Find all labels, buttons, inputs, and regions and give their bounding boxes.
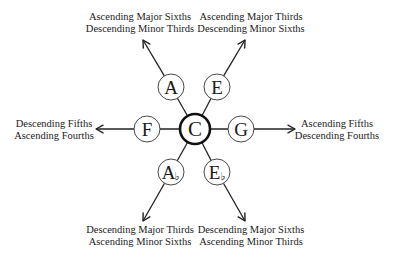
arrow-shaft-eb [223, 183, 245, 221]
note-nodes: AEFGA♭E♭C [134, 74, 254, 185]
arrow-shaft-e [224, 40, 245, 76]
circle-of-intervals-diagram: AEFGA♭E♭C Ascending Major SixthsDescendi… [0, 0, 395, 258]
note-label: E [209, 162, 221, 183]
caption-line: Descending Major Sixths [198, 224, 305, 235]
caption-line: Ascending Major Thirds [199, 11, 302, 22]
caption-e: Ascending Major ThirdsDescending Minor S… [197, 11, 304, 34]
caption-line: Descending Minor Thirds [86, 23, 194, 34]
note-node-a: A [158, 74, 184, 100]
caption-line: Descending Fourths [295, 130, 379, 141]
flat-sign-icon: ♭ [174, 170, 179, 183]
note-node-ab: A♭ [158, 159, 184, 185]
note-node-g: G [228, 116, 254, 142]
caption-line: Descending Major Thirds [86, 224, 194, 235]
arrow-shaft-ab [143, 183, 165, 221]
center-label: C [188, 117, 202, 141]
caption-line: Ascending Minor Sixths [89, 236, 192, 247]
caption-g: Ascending FifthsDescending Fourths [295, 118, 379, 141]
note-node-e: E [204, 74, 230, 100]
caption-line: Ascending Fifths [301, 118, 373, 129]
note-node-f: F [134, 116, 160, 142]
note-label: A [164, 77, 178, 98]
note-label: G [234, 119, 248, 140]
note-label: F [142, 119, 153, 140]
caption-ab: Descending Major ThirdsAscending Minor S… [86, 224, 194, 247]
note-label: E [211, 77, 223, 98]
caption-line: Ascending Fourths [14, 130, 94, 141]
caption-eb: Descending Major SixthsAscending Minor T… [198, 224, 305, 247]
caption-line: Ascending Minor Thirds [199, 236, 303, 247]
caption-line: Ascending Major Sixths [89, 11, 191, 22]
caption-line: Descending Fifths [16, 118, 93, 129]
arrow-shaft-a [143, 40, 164, 76]
note-node-eb: E♭ [204, 159, 230, 185]
caption-f: Descending FifthsAscending Fourths [14, 118, 94, 141]
caption-a: Ascending Major SixthsDescending Minor T… [86, 11, 194, 34]
caption-line: Descending Minor Sixths [197, 23, 304, 34]
center-node-c: C [180, 114, 210, 144]
flat-sign-icon: ♭ [220, 170, 225, 183]
